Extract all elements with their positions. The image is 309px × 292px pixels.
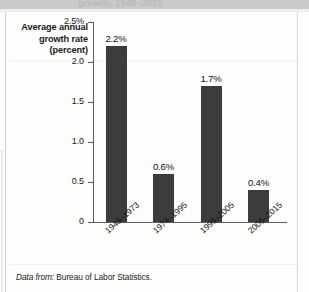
source-note: Data from: Bureau of Labor Statistics. (16, 272, 152, 282)
y-tick-label-2: 1.0 (24, 136, 84, 146)
plot-area: 0 0.5 1.0 1.5 2.0 2.5% 2.2% 0.6% 1.7% 0.… (0, 0, 309, 292)
source-divider (10, 264, 297, 265)
y-tick-5 (88, 22, 93, 23)
y-tick-2 (88, 142, 93, 143)
bar-2 (201, 86, 222, 222)
y-tick-0 (88, 222, 93, 223)
bar-value-0: 2.2% (89, 33, 143, 44)
figure-panel: growth, 1948–2015 Average annual growth … (0, 0, 309, 292)
source-lead: Data from: (16, 272, 54, 282)
y-tick-3 (88, 102, 93, 103)
bar-value-1: 0.6% (137, 161, 191, 172)
bar-value-2: 1.7% (184, 73, 238, 84)
source-text: Bureau of Labor Statistics. (56, 272, 152, 282)
bar-value-3: 0.4% (232, 177, 286, 188)
y-tick-4 (88, 62, 93, 63)
y-tick-label-4: 2.0 (24, 56, 84, 66)
y-tick-label-3: 1.5 (24, 96, 84, 106)
bar-0 (106, 46, 127, 222)
y-tick-1 (88, 182, 93, 183)
y-tick-label-5: 2.5% (24, 16, 84, 26)
y-tick-label-0: 0 (24, 216, 84, 226)
y-axis-line (93, 22, 94, 222)
y-tick-label-1: 0.5 (24, 176, 84, 186)
